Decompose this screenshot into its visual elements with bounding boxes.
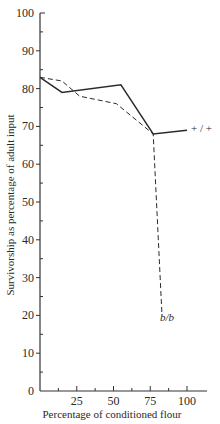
y-tick-label: 30 bbox=[22, 271, 34, 285]
x-tick-label: 100 bbox=[178, 394, 196, 408]
axes bbox=[40, 13, 207, 391]
y-tick-label: 20 bbox=[22, 308, 34, 322]
series-line-plus-plus bbox=[40, 77, 187, 134]
y-axis-ticks: 0102030405060708090100 bbox=[16, 6, 43, 398]
y-tick-label: 60 bbox=[22, 157, 34, 171]
series-label-plus-plus: + / + bbox=[191, 122, 212, 134]
line-chart: 0102030405060708090100 255075100 Survivo… bbox=[0, 0, 220, 424]
y-axis-label: Survivorship as percentage of adult inpu… bbox=[4, 114, 16, 295]
y-tick-label: 80 bbox=[22, 82, 34, 96]
x-tick-label: 25 bbox=[71, 394, 83, 408]
series-line-b-b bbox=[40, 77, 162, 315]
data-lines bbox=[40, 77, 187, 315]
y-tick-label: 10 bbox=[22, 346, 34, 360]
x-tick-label: 75 bbox=[144, 394, 156, 408]
y-tick-label: 40 bbox=[22, 233, 34, 247]
series-label-b-b: b/b bbox=[160, 311, 175, 323]
chart-container: 0102030405060708090100 255075100 Survivo… bbox=[0, 0, 220, 424]
y-tick-label: 90 bbox=[22, 44, 34, 58]
x-axis-ticks: 255075100 bbox=[58, 386, 196, 408]
x-tick-label: 50 bbox=[108, 394, 120, 408]
y-tick-label: 50 bbox=[22, 195, 34, 209]
x-axis-label: Percentage of conditioned flour bbox=[43, 408, 182, 420]
y-tick-label: 0 bbox=[28, 384, 34, 398]
y-tick-label: 70 bbox=[22, 119, 34, 133]
y-tick-label: 100 bbox=[16, 6, 34, 20]
